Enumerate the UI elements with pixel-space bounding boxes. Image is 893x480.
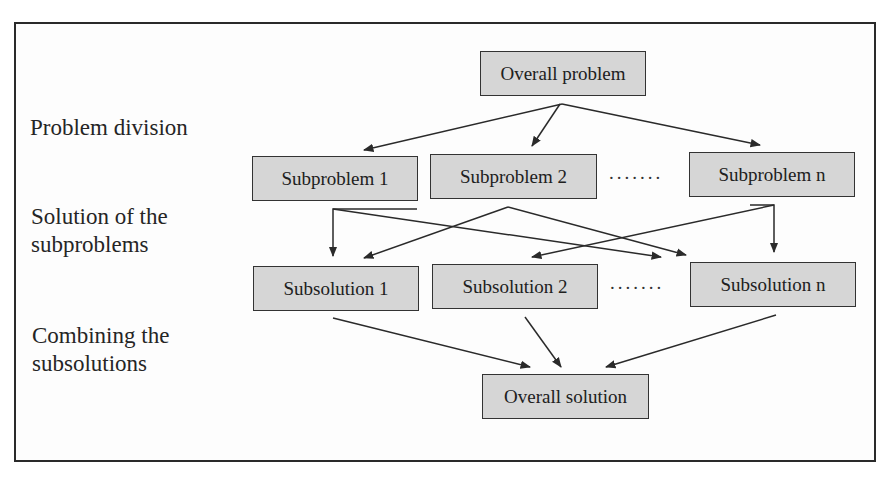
node-subproblem-2: Subproblem 2 — [430, 154, 597, 199]
arrow-subn-to-subsoln — [750, 205, 774, 252]
node-subproblem-n: Subproblem n — [689, 152, 855, 197]
arrow-subsoln-to-overall — [606, 315, 776, 367]
arrow-sub2-to-subsol1 — [364, 207, 508, 258]
node-overall-problem: Overall problem — [480, 51, 646, 96]
arrow-subn-to-subsol2 — [532, 205, 774, 257]
node-subsolution-n: Subsolution n — [690, 262, 856, 307]
arrow-subsol2-to-overall — [525, 317, 561, 367]
ellipsis-subproblems: ....... — [609, 162, 663, 184]
node-subsolution-2: Subsolution 2 — [432, 264, 598, 309]
ellipsis-subsolutions: ....... — [610, 272, 664, 294]
arrows-layer — [0, 0, 893, 480]
arrow-sub1-to-subsol1 — [333, 209, 417, 256]
arrow-sub1-to-subsoln — [333, 209, 661, 257]
arrow-subsol1-to-overall — [333, 318, 530, 367]
node-subproblem-1: Subproblem 1 — [252, 156, 418, 201]
arrow-overall-to-subn — [562, 104, 760, 145]
arrow-overall-to-sub1 — [364, 104, 562, 150]
node-overall-solution: Overall solution — [482, 374, 649, 419]
node-subsolution-1: Subsolution 1 — [253, 266, 419, 311]
